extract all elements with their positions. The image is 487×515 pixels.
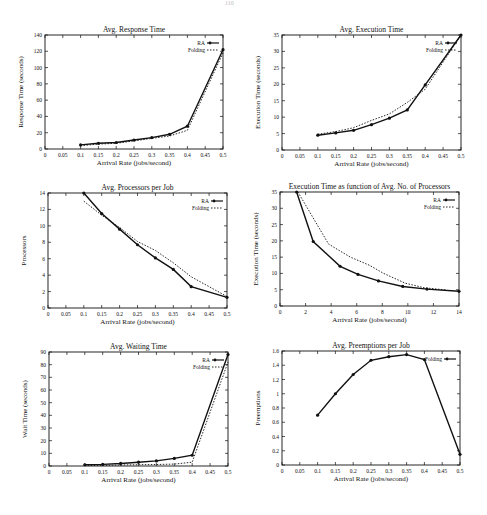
x-tick-label: 0.25 [134,469,144,475]
x-axis-label: Arrival Rate (jobs/second) [334,160,409,168]
x-tick-label: 0.2 [117,469,124,475]
x-tick-label: 0.1 [80,311,87,317]
x-tick-label: 0 [47,311,50,317]
legend: RAFolding [193,357,224,370]
y-tick-label: 0 [274,303,277,309]
data-point [338,265,341,268]
y-tick-label: 14 [40,190,46,196]
y-tick-label: 30 [272,205,278,211]
x-tick-label: 0.05 [61,311,71,317]
x-tick-label: 0.45 [200,152,210,158]
x-tick-label: 10 [405,309,411,315]
y-tick-label: 140 [34,32,43,38]
x-tick-label: 0.25 [133,311,143,317]
y-tick-label: 12 [40,206,46,212]
data-point [334,392,337,395]
y-tick-label: 5 [274,287,277,293]
series-line-ra [85,355,228,465]
legend-label: RA [435,40,443,46]
x-tick-label: 0.3 [153,469,160,475]
data-point [190,285,193,288]
legend: RAFolding [192,198,223,211]
data-point [172,268,175,271]
y-tick-label: 0.6 [272,419,279,425]
y-tick-label: 8 [42,239,45,245]
x-tick-label: 0.5 [458,153,465,159]
figure-grid: Avg. Response Time00.050.10.150.20.250.3… [0,0,487,515]
x-tick-label: 0.25 [366,468,376,474]
chart-c4: Execution Time as function of Avg. No. o… [252,182,462,324]
x-axis-label: Arrival Rate (jobs/second) [334,475,409,483]
y-tick-label: 35 [274,32,280,38]
y-tick-label: 0 [276,147,279,153]
legend-label: RA [197,40,205,46]
plot-frame [282,351,460,465]
y-tick-label: 0 [276,462,279,468]
y-tick-label: 1.2 [272,377,279,383]
y-tick-label: 10 [41,450,47,456]
x-tick-label: 0.1 [314,468,321,474]
x-tick-label: 2 [304,309,307,315]
y-tick-label: 30 [41,425,47,431]
x-tick-label: 0.35 [168,311,178,317]
chart-title: Avg. Execution Time [340,25,404,34]
data-point [221,48,224,51]
data-point [191,454,194,457]
y-tick-label: 0 [42,305,45,311]
y-tick-label: 25 [272,222,278,228]
chart-title: Execution Time as function of Avg. No. o… [289,182,451,191]
x-tick-label: 0.4 [189,469,196,475]
x-tick-label: 0.5 [220,152,227,158]
x-axis-label: Arrival Rate (jobs/second) [100,318,175,326]
legend-label: RA [433,197,441,203]
x-tick-label: 4 [330,309,333,315]
x-axis-label: Arrival Rate (jobs/second) [332,316,407,324]
x-tick-label: 0.2 [113,152,120,158]
y-axis-label: Execution Time (seconds) [252,212,260,286]
x-tick-label: 0.35 [402,153,412,159]
data-point [155,459,158,462]
y-tick-label: 60 [41,387,47,393]
x-tick-label: 0.1 [314,153,321,159]
legend-label: Folding [425,356,442,362]
x-tick-label: 0.1 [81,469,88,475]
chart-c3: Avg. Processors per Job00.050.10.150.20.… [20,183,231,326]
y-tick-label: 10 [40,223,46,229]
y-tick-label: 20 [37,130,43,136]
x-tick-label: 0 [281,468,284,474]
chart-title: Avg. Response Time [103,25,166,34]
x-tick-label: 0.4 [422,153,429,159]
x-tick-label: 0.4 [421,468,428,474]
y-tick-label: 80 [37,81,43,87]
data-point [115,141,118,144]
y-tick-label: 120 [34,48,43,54]
y-tick-label: 1.4 [272,362,279,368]
data-point [370,123,373,126]
data-point [154,256,157,259]
y-tick-label: 0 [39,146,42,152]
y-tick-label: 15 [274,98,280,104]
data-point [424,83,427,86]
y-axis-label: Processors [20,235,28,265]
data-point [316,414,319,417]
y-axis-label: Execution Time (seconds) [254,55,262,129]
y-tick-label: 40 [41,412,47,418]
y-tick-label: 2 [42,289,45,295]
x-tick-label: 0 [279,309,282,315]
x-tick-label: 0.15 [94,152,104,158]
x-tick-label: 0.35 [165,152,175,158]
x-tick-label: 0.45 [437,468,447,474]
y-tick-label: 4 [42,272,45,278]
x-tick-label: 0.05 [295,153,305,159]
y-tick-label: 5 [276,131,279,137]
y-tick-label: 60 [37,97,43,103]
x-tick-label: 0.4 [184,152,191,158]
y-tick-label: 20 [41,438,47,444]
x-tick-label: 0.3 [385,468,392,474]
x-tick-label: 0.45 [438,153,448,159]
chart-c5: Avg. Waiting Time00.050.10.150.20.250.30… [21,342,232,484]
series-line-ra [81,50,223,145]
series-line-folding [84,201,227,296]
y-tick-label: 35 [272,189,278,195]
x-tick-label: 0.05 [58,152,68,158]
